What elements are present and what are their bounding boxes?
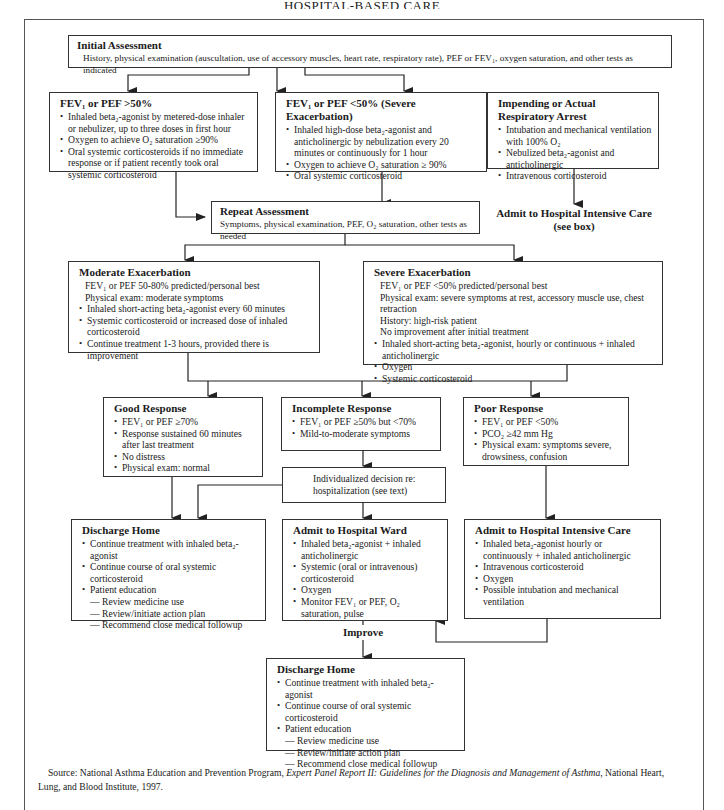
list-item: FEV₁ or PEF <50% predicted/personal best — [374, 280, 656, 292]
improve-label: Improve — [323, 626, 403, 639]
admit-icu-box: Admit to Hospital Intensive Care Inhaled… — [464, 519, 661, 619]
good-response-box: Good Response FEV₁ or PEF ≥70% Response … — [103, 397, 263, 477]
list-item: Oxygen to achieve O₂ saturation ≥ 90% — [286, 159, 480, 171]
list-subitem: — Review medicine use — [277, 735, 458, 747]
list-item: Systemic (oral or intravenous) corticost… — [293, 561, 441, 584]
list-item: Physical exam: symptoms severe, drowsine… — [474, 439, 622, 462]
list-item: Inhaled beta₂-agonist + inhaled antichol… — [293, 538, 441, 561]
list-item: Continue treatment with inhaled beta₂-ag… — [277, 677, 458, 700]
source-prefix: Source: National Asthma Education and Pr… — [48, 767, 286, 778]
list-item: Response sustained 60 minutes after last… — [114, 428, 256, 451]
list-item: FEV₁ or PEF ≥70% — [114, 416, 256, 428]
list-item: Intravenous corticosteroid — [475, 561, 654, 573]
admit-icu-title: Admit to Hospital Intensive Care — [475, 524, 654, 537]
list-item: Intubation and mechanical ventilation wi… — [498, 124, 652, 147]
list-item: Inhaled high-dose beta₂-agonist and anti… — [286, 124, 480, 159]
poor-response-box: Poor Response FEV₁ or PEF <50% PCO₂ ≥42 … — [463, 397, 629, 466]
list-item: Inhaled short-acting beta₂-agonist every… — [79, 303, 313, 315]
initial-assessment-box: Initial Assessment History, physical exa… — [68, 35, 672, 68]
list-item: Systemic corticosteroid or increased dos… — [79, 315, 313, 338]
list-item: Patient education — [82, 584, 259, 596]
list-item: Inhaled beta₂-agonist by metered-dose in… — [60, 111, 251, 134]
list-item: Patient education — [277, 723, 458, 735]
moderate-exacerbation-title: Moderate Exacerbation — [79, 266, 313, 279]
admit-ward-title: Admit to Hospital Ward — [293, 524, 441, 537]
fev-below-50-box: FEV₁ or PEF <50% (Severe Exacerbation) I… — [275, 92, 487, 172]
list-item: Continue treatment 1-3 hours, provided t… — [79, 338, 313, 361]
fev-below-50-title: FEV₁ or PEF <50% (Severe Exacerbation) — [286, 97, 480, 123]
list-item: Oral systemic corticosteroid — [286, 170, 480, 182]
list-item: Nebulized beta₂-agonist and anticholiner… — [498, 147, 652, 170]
initial-assessment-title: Initial Assessment — [77, 39, 665, 52]
list-item: Continue course of oral systemic cortico… — [82, 561, 259, 584]
repeat-assessment-text: Symptoms, physical examination, PEF, O₂ … — [220, 219, 473, 242]
list-subitem: — Review medicine use — [82, 596, 259, 608]
discharge-home-box: Discharge Home Continue treatment with i… — [71, 519, 266, 621]
list-item: Systemic corticosteroid — [374, 373, 656, 385]
admit-icu-label-line1: Admit to Hospital Intensive Care — [494, 207, 654, 220]
discharge-home-title: Discharge Home — [277, 663, 458, 676]
discharge-home-after-ward-box: Discharge Home Continue treatment with i… — [266, 658, 465, 751]
incomplete-response-box: Incomplete Response FEV₁ or PEF ≥50% but… — [281, 397, 441, 451]
list-item: Continue course of oral systemic cortico… — [277, 700, 458, 723]
list-item: No improvement after initial treatment — [374, 326, 656, 338]
repeat-assessment-box: Repeat Assessment Symptoms, physical exa… — [211, 201, 480, 234]
initial-assessment-text: History, physical examination (auscultat… — [77, 53, 665, 76]
fev-above-50-title: FEV₁ or PEF >50% — [60, 97, 251, 110]
list-item: Physical exam: normal — [114, 462, 256, 474]
list-item: Inhaled short-acting beta₂-agonist, hour… — [374, 338, 656, 361]
list-item: Physical exam: moderate symptoms — [79, 292, 313, 304]
list-item: Intravenous corticosteroid — [498, 170, 652, 182]
list-subitem: — Review/initiate action plan — [82, 608, 259, 620]
moderate-exacerbation-box: Moderate Exacerbation FEV₁ or PEF 50-80%… — [68, 261, 320, 353]
poor-response-title: Poor Response — [474, 402, 622, 415]
list-item: Oral systemic corticosteroids if no imme… — [60, 146, 251, 181]
list-item: Oxygen — [374, 361, 656, 373]
list-subitem: — Recommend close medical followup — [82, 619, 259, 631]
fev-above-50-box: FEV₁ or PEF >50% Inhaled beta₂-agonist b… — [49, 92, 258, 172]
list-item: PCO₂ ≥42 mm Hg — [474, 428, 622, 440]
list-item: Oxygen to achieve O₂ saturation ≥90% — [60, 134, 251, 146]
individualized-decision-line2: hospitalization (see text) — [313, 485, 439, 497]
list-item: No distress — [114, 451, 256, 463]
list-item: Monitor FEV₁ or PEF, O₂ saturation, puls… — [293, 596, 441, 619]
list-item: FEV₁ or PEF 50-80% predicted/personal be… — [79, 280, 313, 292]
severe-exacerbation-box: Severe Exacerbation FEV₁ or PEF <50% pre… — [363, 261, 663, 365]
list-item: Mild-to-moderate symptoms — [292, 428, 434, 440]
individualized-decision-box: Individualized decision re: hospitalizat… — [282, 467, 446, 503]
list-item: Continue treatment with inhaled beta₂-ag… — [82, 538, 259, 561]
source-title: Expert Panel Report II: Guidelines for t… — [286, 767, 600, 778]
respiratory-arrest-title: Impending or Actual Respiratory Arrest — [498, 97, 652, 123]
list-item: FEV₁ or PEF ≥50% but <70% — [292, 416, 434, 428]
admit-icu-label-line2: (see box) — [494, 220, 654, 233]
list-item: Physical exam: severe symptoms at rest, … — [374, 292, 656, 315]
list-item: FEV₁ or PEF <50% — [474, 416, 622, 428]
list-item: Oxygen — [293, 584, 441, 596]
admit-ward-box: Admit to Hospital Ward Inhaled beta₂-ago… — [282, 519, 448, 621]
respiratory-arrest-box: Impending or Actual Respiratory Arrest I… — [487, 92, 659, 169]
list-item: Possible intubation and mechanical venti… — [475, 584, 654, 607]
repeat-assessment-title: Repeat Assessment — [220, 205, 473, 218]
admit-icu-label: Admit to Hospital Intensive Care (see bo… — [494, 207, 654, 233]
list-item: Inhaled beta₂-agonist hourly or continuo… — [475, 538, 654, 561]
source-citation: Source: National Asthma Education and Pr… — [38, 766, 688, 794]
good-response-title: Good Response — [114, 402, 256, 415]
page-title: HOSPITAL-BASED CARE — [0, 0, 724, 9]
list-item: History: high-risk patient — [374, 315, 656, 327]
list-item: Oxygen — [475, 573, 654, 585]
list-subitem: — Review/initiate action plan — [277, 747, 458, 759]
individualized-decision-line1: Individualized decision re: — [313, 473, 439, 485]
discharge-home-title: Discharge Home — [82, 524, 259, 537]
severe-exacerbation-title: Severe Exacerbation — [374, 266, 656, 279]
incomplete-response-title: Incomplete Response — [292, 402, 434, 415]
